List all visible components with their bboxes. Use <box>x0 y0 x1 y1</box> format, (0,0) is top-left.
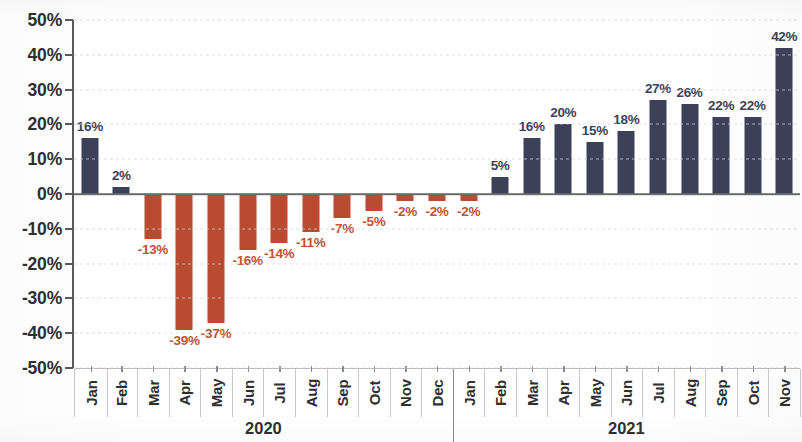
bar[interactable] <box>492 177 509 194</box>
x-axis-month-label: Jul <box>271 382 288 403</box>
x-axis-cell-jul-18[interactable]: Jul <box>642 369 675 417</box>
gridline <box>74 159 800 160</box>
x-axis-cell-aug-7[interactable]: Aug <box>295 369 328 417</box>
bar[interactable] <box>586 142 603 194</box>
y-tick-mark <box>65 89 73 91</box>
bar-chart: 50%40%30%20%10%0%-10%-20%-30%-40%-50% 16… <box>0 0 802 442</box>
x-axis-cell-nov-22[interactable]: Nov <box>768 369 801 417</box>
x-axis-cell-oct-9[interactable]: Oct <box>358 369 391 417</box>
x-axis-month-label: May <box>586 379 603 408</box>
x-axis-month-label: Sep <box>334 380 351 407</box>
x-axis-month-label: Jun <box>618 380 635 406</box>
bar[interactable] <box>81 138 98 194</box>
bar-value-label: 22% <box>740 98 766 113</box>
x-axis-month-label: Sep <box>713 380 730 407</box>
bar[interactable] <box>428 194 445 201</box>
bar-value-label: 22% <box>708 98 734 113</box>
x-axis-year-group-2020: 2020 <box>74 416 454 442</box>
x-axis-cell-dec-11[interactable]: Dec <box>421 369 454 417</box>
y-axis-tick-7: -20% <box>6 253 62 274</box>
x-axis-month-label: Nov <box>776 379 793 407</box>
x-axis-cell-may-4[interactable]: May <box>200 369 233 417</box>
gridline <box>74 89 800 90</box>
bar-value-label: -2% <box>394 204 417 219</box>
bar-value-label: 5% <box>491 158 510 173</box>
x-axis-month-label: Feb <box>113 380 130 406</box>
bar[interactable] <box>713 117 730 194</box>
y-axis-tick-9: -40% <box>6 323 62 344</box>
x-axis-month-label: Apr <box>555 380 572 405</box>
y-axis-tick-10: -50% <box>6 358 62 379</box>
x-axis-cell-aug-19[interactable]: Aug <box>674 369 707 417</box>
y-tick-mark <box>65 367 73 369</box>
x-axis-month-label: Oct <box>365 381 382 405</box>
bar[interactable] <box>239 194 256 250</box>
bar-value-label: -14% <box>264 246 294 261</box>
bar[interactable] <box>365 194 382 211</box>
y-tick-mark <box>65 158 73 160</box>
x-axis-cell-nov-10[interactable]: Nov <box>390 369 423 417</box>
bar[interactable] <box>302 194 319 232</box>
x-axis-cell-may-16[interactable]: May <box>579 369 612 417</box>
bar-value-label: 18% <box>613 112 639 127</box>
gridline <box>74 124 800 125</box>
x-axis-cell-jan-0[interactable]: Jan <box>74 369 108 417</box>
bar[interactable] <box>176 194 193 330</box>
y-tick-mark <box>65 19 73 21</box>
x-axis-cell-jan-12[interactable]: Jan <box>453 369 486 417</box>
x-axis-cell-jun-17[interactable]: Jun <box>611 369 644 417</box>
bar-value-label: 16% <box>77 119 103 134</box>
bar[interactable] <box>144 194 161 239</box>
x-axis-cell-feb-13[interactable]: Feb <box>484 369 517 417</box>
x-axis-year-group-2021: 2021 <box>453 416 800 442</box>
x-axis-cell-jul-6[interactable]: Jul <box>263 369 296 417</box>
x-axis-month-label: Apr <box>176 380 193 405</box>
y-axis-tick-3: 20% <box>6 114 62 135</box>
bar[interactable] <box>271 194 288 243</box>
gridline <box>74 298 800 299</box>
x-axis-cell-sep-20[interactable]: Sep <box>705 369 738 417</box>
bar[interactable] <box>397 194 414 201</box>
gridline <box>74 228 800 229</box>
bar-value-label: 20% <box>550 105 576 120</box>
bar[interactable] <box>776 48 793 194</box>
bar-value-label: -11% <box>296 235 326 250</box>
bar-value-label: 15% <box>582 123 608 138</box>
x-axis-cell-mar-14[interactable]: Mar <box>516 369 549 417</box>
bar[interactable] <box>523 138 540 194</box>
gridline <box>74 54 800 55</box>
bar[interactable] <box>649 100 666 194</box>
bar[interactable] <box>744 117 761 194</box>
bar-value-label: -39% <box>169 333 199 348</box>
x-axis-cell-apr-3[interactable]: Apr <box>169 369 202 417</box>
zero-baseline <box>74 193 800 195</box>
x-axis-month-label: Feb <box>492 380 509 406</box>
x-axis-cell-mar-2[interactable]: Mar <box>137 369 170 417</box>
bar-value-label: -2% <box>425 204 448 219</box>
y-tick-mark <box>65 54 73 56</box>
x-axis-cell-oct-21[interactable]: Oct <box>737 369 770 417</box>
y-tick-mark <box>65 228 73 230</box>
bar-value-label: 2% <box>112 168 131 183</box>
bar[interactable] <box>681 104 698 194</box>
x-axis-month-label: Jan <box>460 380 477 405</box>
x-axis-month-label: Nov <box>397 379 414 407</box>
x-axis-cell-apr-15[interactable]: Apr <box>547 369 580 417</box>
y-axis-tick-labels: 50%40%30%20%10%0%-10%-20%-30%-40%-50% <box>0 0 62 442</box>
x-axis-cell-feb-1[interactable]: Feb <box>106 369 139 417</box>
y-tick-mark <box>65 123 73 125</box>
gridline <box>74 20 800 21</box>
bar-value-label: -16% <box>232 253 262 268</box>
y-axis-tick-2: 30% <box>6 79 62 100</box>
y-axis-tick-8: -30% <box>6 288 62 309</box>
y-axis-tick-5: 0% <box>6 184 62 205</box>
bar[interactable] <box>208 194 225 323</box>
x-axis-cell-sep-8[interactable]: Sep <box>327 369 360 417</box>
y-tick-mark <box>65 193 73 195</box>
bar[interactable] <box>460 194 477 201</box>
bar[interactable] <box>334 194 351 218</box>
x-axis-cell-jun-5[interactable]: Jun <box>232 369 265 417</box>
x-axis-month-label: Oct <box>744 381 761 405</box>
bar[interactable] <box>618 131 635 194</box>
y-tick-mark <box>65 332 73 334</box>
